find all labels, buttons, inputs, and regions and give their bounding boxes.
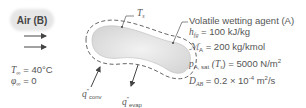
- psat-row: pA, sat (Ts) = 5000 N/m2: [189, 56, 294, 73]
- wetted-body-shape: [92, 26, 190, 73]
- surface-temperature-label: Ts: [137, 8, 145, 22]
- hfg-row: hfg = 100 kJ/kg: [189, 26, 294, 41]
- ambient-humidity: φ∞ = 0: [11, 75, 37, 90]
- agent-title: Volatile wetting agent (A): [189, 15, 294, 26]
- conv-flux-label: q″conv: [82, 86, 102, 103]
- evap-flux-label: q″evap: [122, 94, 142, 108]
- ts-leader: [122, 16, 134, 27]
- conv-flux-arrow-icon: [91, 67, 100, 87]
- property-list: Volatile wetting agent (A) hfg = 100 kJ/…: [189, 15, 294, 90]
- evap-flux-arrow-icon: [131, 65, 138, 86]
- molar-mass-row: ℳA = 200 kg/kmol: [189, 41, 294, 56]
- diffusivity-row: DAB = 0.2 × 10-4 m2/s: [189, 73, 294, 90]
- airflow-arrows-icon: [24, 36, 46, 47]
